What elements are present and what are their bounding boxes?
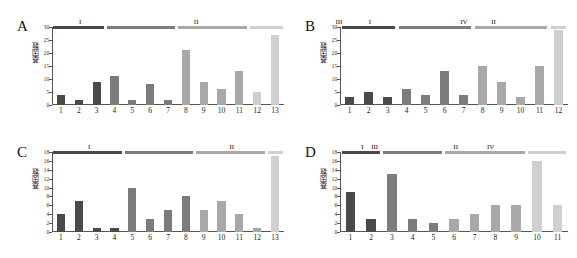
bar xyxy=(253,92,261,105)
x-tick-label: 6 xyxy=(148,107,152,115)
x-tick-label: 3 xyxy=(95,107,99,115)
bar xyxy=(200,210,208,232)
y-tick xyxy=(49,53,52,54)
bar xyxy=(402,89,411,105)
x-tick-label: 3 xyxy=(386,107,390,115)
group-bar: I xyxy=(342,151,380,154)
y-tick-label: 15 xyxy=(332,64,337,69)
y-axis-label: 基因数 xyxy=(31,42,41,63)
x-tick-label: 3 xyxy=(390,234,394,242)
y-tick-label: 30 xyxy=(332,25,337,30)
x-tick-label: 8 xyxy=(481,107,485,115)
x-tick-label: 13 xyxy=(271,107,279,115)
y-tick xyxy=(337,214,340,215)
x-tick-label: 5 xyxy=(130,107,134,115)
bar xyxy=(516,97,525,105)
y-tick-label: 0 xyxy=(334,103,337,108)
bar xyxy=(235,214,243,232)
y-tick-label: 10 xyxy=(332,77,337,82)
plot-area-a: 05101520253012345678910111213 xyxy=(52,27,284,105)
y-tick xyxy=(49,40,52,41)
plot-area-c: 02468101214161812345678910111213 xyxy=(52,152,284,232)
y-tick-label: 5 xyxy=(334,90,337,95)
y-axis-line xyxy=(340,152,341,232)
y-tick xyxy=(337,205,340,206)
y-tick xyxy=(49,188,52,189)
x-tick-label: 7 xyxy=(462,107,466,115)
y-tick xyxy=(337,232,340,233)
y-axis-line xyxy=(340,27,341,105)
y-tick xyxy=(337,196,340,197)
x-tick-label: 7 xyxy=(166,107,170,115)
y-tick-label: 2 xyxy=(334,221,337,226)
group-bar: II xyxy=(107,26,176,29)
y-axis-label: 基因数 xyxy=(319,42,329,63)
group-bar: IV xyxy=(250,26,283,29)
y-tick xyxy=(49,196,52,197)
bar xyxy=(146,219,154,232)
x-tick-label: 10 xyxy=(218,107,226,115)
x-tick-label: 1 xyxy=(348,107,352,115)
x-tick-label: 1 xyxy=(59,107,63,115)
bar xyxy=(554,30,563,105)
group-bar: III xyxy=(475,26,548,29)
y-tick-label: 18 xyxy=(332,150,337,155)
x-tick-label: 8 xyxy=(184,107,188,115)
y-tick xyxy=(49,223,52,224)
x-tick-label: 10 xyxy=(517,107,525,115)
bar xyxy=(553,205,563,232)
y-tick-label: 4 xyxy=(334,212,337,217)
y-tick-label: 6 xyxy=(46,203,49,208)
group-band-d: IIIIIIIV xyxy=(340,151,568,154)
panel-b: B基因数051015202530123456789101112IIIIIIIV xyxy=(288,0,577,128)
x-tick-label: 12 xyxy=(555,107,563,115)
y-tick-label: 4 xyxy=(46,212,49,217)
bar xyxy=(164,100,172,105)
group-bar: I xyxy=(53,151,122,154)
bar xyxy=(421,95,430,105)
y-tick-label: 30 xyxy=(44,25,49,30)
group-label: I xyxy=(79,19,81,26)
bar xyxy=(271,156,279,232)
y-tick-label: 5 xyxy=(46,90,49,95)
panel-letter-c: C xyxy=(17,144,27,161)
group-label: II xyxy=(491,19,496,26)
bar xyxy=(235,71,243,105)
bar xyxy=(459,95,468,105)
group-bar: IV xyxy=(528,151,566,154)
plot-area-d: 0246810121416181234567891011 xyxy=(340,152,568,232)
y-tick xyxy=(337,161,340,162)
bar xyxy=(128,188,136,232)
y-tick xyxy=(337,170,340,171)
bar xyxy=(57,214,65,232)
x-tick-label: 4 xyxy=(405,107,409,115)
group-label: I xyxy=(88,144,90,151)
x-tick-label: 11 xyxy=(536,107,543,115)
bar xyxy=(110,76,118,105)
x-tick-label: 4 xyxy=(411,234,415,242)
bar xyxy=(146,84,154,105)
y-tick-label: 20 xyxy=(44,51,49,56)
y-tick-label: 25 xyxy=(332,38,337,43)
y-tick xyxy=(337,53,340,54)
group-bar: IV xyxy=(268,151,283,154)
y-tick-label: 8 xyxy=(46,194,49,199)
bar xyxy=(217,89,225,105)
panel-c: C基因数02468101214161812345678910111213IIII… xyxy=(0,128,288,258)
group-label: I xyxy=(369,19,371,26)
y-tick xyxy=(337,92,340,93)
x-tick-label: 11 xyxy=(554,234,561,242)
bar xyxy=(93,82,101,105)
bar xyxy=(387,174,397,232)
bar xyxy=(75,201,83,232)
x-tick-label: 9 xyxy=(500,107,504,115)
bar xyxy=(497,82,506,105)
y-tick-label: 14 xyxy=(44,167,49,172)
x-axis-line xyxy=(340,104,568,105)
panel-letter-a: A xyxy=(17,18,28,35)
x-tick-label: 2 xyxy=(77,234,81,242)
y-tick xyxy=(337,179,340,180)
group-bar: III xyxy=(196,151,265,154)
y-tick-label: 10 xyxy=(44,77,49,82)
group-bar: III xyxy=(445,151,525,154)
